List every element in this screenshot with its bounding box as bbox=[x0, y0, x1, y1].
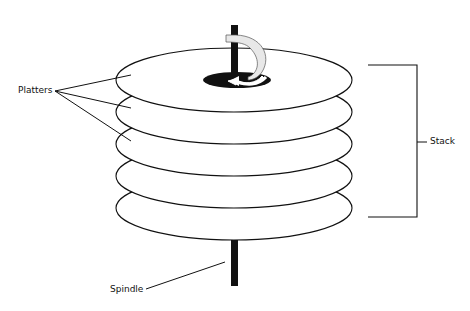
stack-bracket bbox=[368, 65, 417, 217]
disk-stack-drawing bbox=[0, 0, 470, 311]
spindle-upper bbox=[231, 25, 238, 77]
spindle-bottom bbox=[231, 240, 238, 286]
spindle-leader bbox=[146, 262, 225, 289]
diagram-canvas: Platters Stack Spindle bbox=[0, 0, 470, 311]
platters-label: Platters bbox=[18, 85, 52, 95]
stack-label: Stack bbox=[430, 136, 455, 146]
spindle-label: Spindle bbox=[110, 284, 143, 294]
